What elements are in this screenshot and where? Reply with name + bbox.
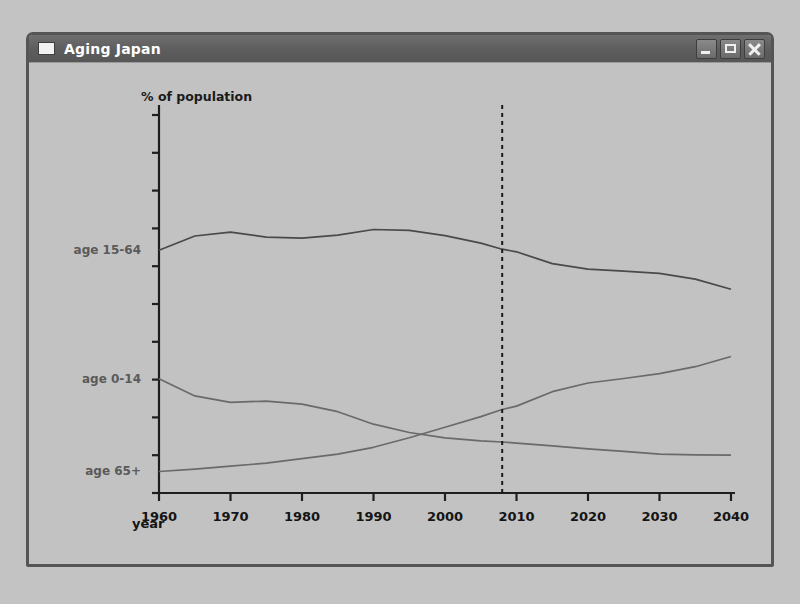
window-icon [38, 42, 55, 55]
chart-axes [152, 105, 735, 501]
y-axis-title: % of population [141, 89, 252, 104]
series-inline-labels: age 15-64age 0-14age 65+ [74, 243, 141, 478]
line-chart: % of population 196019701980199020002010… [29, 63, 771, 565]
x-tick-label: 2030 [641, 509, 677, 524]
x-tick-label: 2010 [498, 509, 534, 524]
chart-series [159, 230, 731, 472]
series-label-age-0-14: age 0-14 [82, 372, 141, 386]
window-title-bar[interactable]: Aging Japan [29, 35, 771, 62]
maximize-button[interactable] [720, 39, 741, 59]
x-axis-tick-labels: 196019701980199020002010202020302040 [141, 509, 749, 524]
series-label-age-65-: age 65+ [85, 464, 141, 478]
x-tick-label: 2000 [427, 509, 463, 524]
window-controls [696, 39, 765, 59]
application-window: Aging Japan % of population 196019701980… [26, 32, 774, 567]
window-client-area: % of population 196019701980199020002010… [29, 62, 771, 564]
minimize-button[interactable] [696, 39, 717, 59]
series-line-age-15-64 [159, 230, 731, 290]
x-tick-label: 1980 [284, 509, 320, 524]
x-tick-label: 1990 [355, 509, 391, 524]
series-line-age-65- [159, 357, 731, 472]
series-label-age-15-64: age 15-64 [74, 243, 141, 257]
close-button[interactable] [744, 39, 765, 59]
x-tick-label: 2020 [570, 509, 606, 524]
minimize-icon [701, 51, 710, 54]
window-title: Aging Japan [64, 41, 161, 57]
series-line-age-0-14 [159, 379, 731, 455]
maximize-icon [725, 44, 736, 53]
x-tick-label: 2040 [713, 509, 749, 524]
x-axis-title: year [132, 516, 165, 531]
x-tick-label: 1970 [212, 509, 248, 524]
